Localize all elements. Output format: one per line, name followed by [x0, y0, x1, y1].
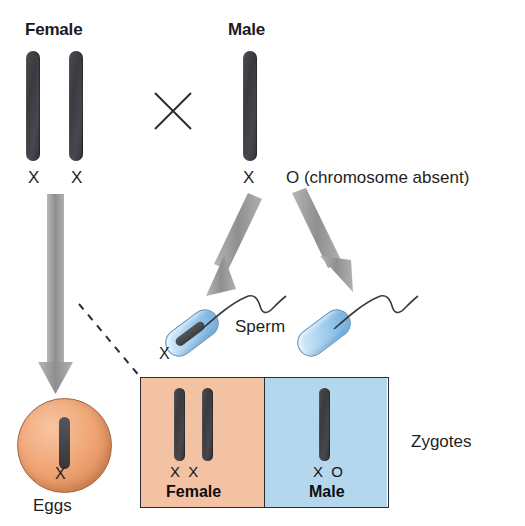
zygote-female-name: Female — [166, 483, 221, 501]
male-to-x-sperm-arrow — [206, 193, 262, 296]
zygote-male-name: Male — [309, 483, 345, 501]
zygote-male-genotype: X O — [313, 463, 345, 480]
zygote-male-chromosome — [319, 388, 330, 461]
sperm-x-label: X — [159, 345, 170, 363]
zygote-female-chromosome-1 — [174, 388, 185, 461]
zygote-box: X X Female X O Male — [140, 377, 389, 508]
egg-chromosome — [59, 417, 70, 469]
zygote-female-genotype: X X — [170, 463, 200, 480]
eggs-label: Eggs — [33, 496, 72, 516]
zygote-female-chromosome-2 — [202, 388, 213, 461]
sperm-label: Sperm — [235, 317, 285, 337]
egg-x-label: X — [55, 465, 66, 483]
egg-cell: X — [17, 398, 112, 493]
male-to-o-sperm-arrow — [292, 188, 353, 292]
zygotes-label: Zygotes — [411, 432, 471, 452]
egg-to-zygote-dashed-line — [79, 304, 141, 378]
sperm-with-x: X — [160, 303, 230, 373]
sperm-without-chromosome — [292, 303, 362, 373]
zygote-male-panel: X O Male — [265, 378, 387, 507]
sperm-o-tail — [334, 289, 420, 337]
xo-sex-determination-diagram: Female Male X X X O (chromosome absent) — [0, 0, 525, 526]
zygote-female-panel: X X Female — [141, 378, 265, 507]
female-to-eggs-arrow — [38, 194, 73, 394]
